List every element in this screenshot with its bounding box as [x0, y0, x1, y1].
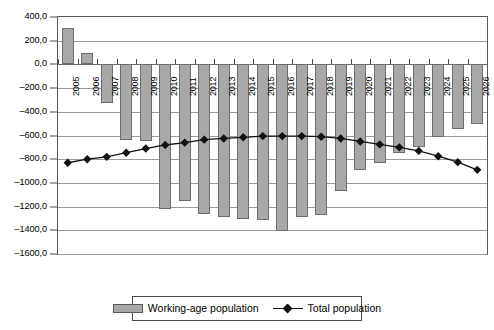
line-marker-diamond — [161, 141, 169, 149]
x-axis-year-label: 2011 — [189, 78, 198, 97]
x-axis-year-label: 2013 — [228, 77, 237, 96]
chart-legend: Working-age population Total population — [132, 296, 362, 321]
x-axis-year-label: 2023 — [423, 77, 432, 96]
x-axis-year-label: 2019 — [345, 77, 354, 96]
line-marker-diamond — [298, 132, 306, 140]
plot-area — [57, 16, 488, 255]
y-axis: 400,0200,00,0–200,0–400,0–600,0–800,0–10… — [0, 0, 57, 260]
x-axis-year-label: 2022 — [404, 77, 413, 96]
line-marker-diamond — [415, 147, 423, 155]
x-axis-year-label: 2006 — [92, 77, 101, 96]
line-marker-diamond — [200, 135, 208, 143]
line-marker-diamond — [337, 134, 345, 142]
x-axis-year-label: 2007 — [111, 77, 120, 96]
gridline — [58, 254, 487, 255]
y-axis-tick-mark — [50, 206, 57, 207]
y-axis-tick-label: –1000,0 — [14, 178, 47, 187]
legend-label-working-age: Working-age population — [148, 303, 259, 314]
line-marker-diamond — [259, 132, 267, 140]
x-axis-year-label: 2025 — [462, 77, 471, 96]
x-axis-year-label: 2015 — [267, 77, 276, 96]
y-axis-tick-mark — [50, 230, 57, 231]
x-axis-year-label: 2010 — [170, 77, 179, 96]
legend-item-total-population: Total population — [273, 303, 382, 314]
y-axis-tick-label: 0,0 — [35, 60, 47, 69]
x-axis-year-label: 2018 — [326, 77, 335, 96]
x-axis-year-label: 2014 — [248, 77, 257, 96]
line-marker-diamond — [473, 166, 481, 174]
line-marker-diamond — [454, 158, 462, 166]
y-axis-tick-mark — [50, 254, 57, 255]
x-axis-year-label: 2017 — [306, 77, 315, 96]
x-axis-year-label: 2005 — [72, 77, 81, 96]
y-axis-tick-mark — [50, 111, 57, 112]
x-axis-year-label: 2009 — [150, 77, 159, 96]
y-axis-tick-mark — [50, 64, 57, 65]
y-axis-tick-mark — [50, 40, 57, 41]
x-axis-year-label: 2021 — [384, 77, 393, 96]
line-marker-diamond — [64, 159, 72, 167]
line-marker-diamond — [395, 143, 403, 151]
y-axis-tick-label: –1200,0 — [14, 202, 47, 211]
line-marker-diamond — [376, 140, 384, 148]
line-marker-diamond — [181, 138, 189, 146]
y-axis-tick-label: 200,0 — [25, 36, 48, 45]
y-axis-tick-label: 400,0 — [25, 12, 48, 21]
y-axis-tick-label: –400,0 — [19, 107, 47, 116]
y-axis-tick-label: –200,0 — [19, 83, 47, 92]
line-marker-diamond — [83, 155, 91, 163]
y-axis-tick-mark — [50, 17, 57, 18]
legend-bar-swatch-icon — [113, 304, 143, 313]
line-marker-diamond — [317, 132, 325, 140]
line-marker-diamond — [122, 148, 130, 156]
legend-item-working-age: Working-age population — [113, 303, 259, 314]
chart-root: 400,0200,00,0–200,0–400,0–600,0–800,0–10… — [0, 0, 494, 330]
y-axis-tick-mark — [50, 88, 57, 89]
y-axis-tick-mark — [50, 159, 57, 160]
x-axis-year-label: 2016 — [287, 77, 296, 96]
x-axis-year-label: 2012 — [209, 77, 218, 96]
x-axis-year-label: 2008 — [131, 77, 140, 96]
line-marker-diamond — [278, 132, 286, 140]
line-marker-diamond — [142, 144, 150, 152]
y-axis-tick-label: –600,0 — [19, 131, 47, 140]
y-axis-tick-label: –1600,0 — [14, 249, 47, 258]
x-axis-year-label: 2024 — [443, 77, 452, 96]
legend-label-total-population: Total population — [308, 303, 382, 314]
y-axis-tick-mark — [50, 135, 57, 136]
x-axis-year-label: 2026 — [482, 77, 491, 96]
y-axis-tick-label: –1400,0 — [14, 226, 47, 235]
line-marker-diamond — [103, 153, 111, 161]
legend-line-diamond-icon — [273, 304, 303, 314]
x-axis-year-label: 2020 — [365, 77, 374, 96]
line-marker-diamond — [239, 133, 247, 141]
line-marker-diamond — [434, 152, 442, 160]
line-marker-diamond — [356, 137, 364, 145]
total-population-line — [58, 17, 487, 254]
y-axis-tick-mark — [50, 182, 57, 183]
y-axis-tick-label: –800,0 — [19, 155, 47, 164]
line-marker-diamond — [220, 134, 228, 142]
